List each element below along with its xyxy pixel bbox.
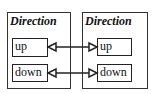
right-up-arrowhead-icon [89, 43, 97, 51]
right-down-arrowhead-icon [89, 69, 97, 77]
left-down-arrowhead-icon [48, 69, 56, 77]
connector-arrows [0, 0, 155, 93]
left-up-arrowhead-icon [48, 43, 56, 51]
